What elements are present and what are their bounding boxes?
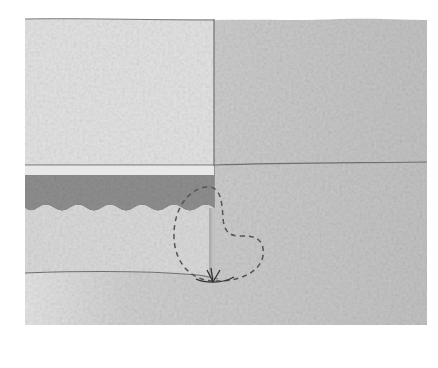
upper-left-block <box>25 19 214 165</box>
dark-band <box>25 175 214 211</box>
thin-band <box>25 166 214 175</box>
lower-left-block <box>25 205 214 276</box>
stem-shadow <box>209 208 215 278</box>
cross-section-diagram <box>0 0 438 368</box>
